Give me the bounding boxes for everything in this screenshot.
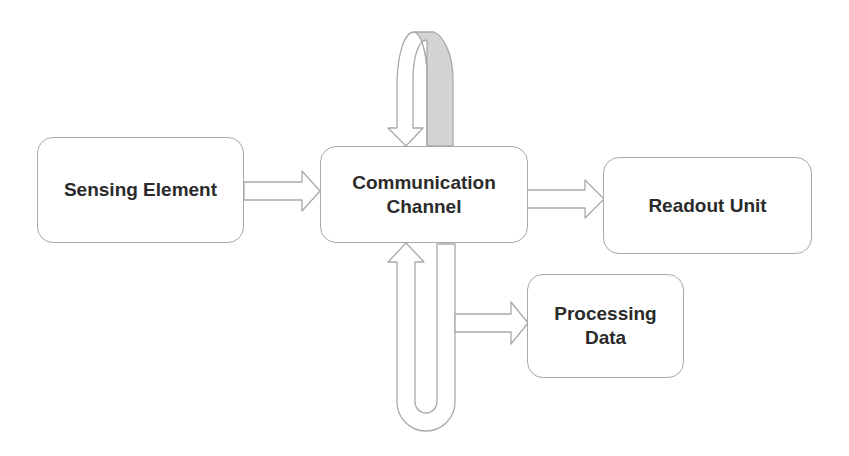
node-processing-data: Processing Data bbox=[527, 274, 684, 378]
node-readout-unit: Readout Unit bbox=[603, 157, 812, 254]
node-label: Communication Channel bbox=[352, 171, 496, 219]
arrow-comm-to-readout bbox=[527, 180, 604, 218]
node-communication-channel: Communication Channel bbox=[320, 146, 528, 243]
arrow-sensing-to-comm bbox=[244, 171, 320, 211]
node-label: Readout Unit bbox=[648, 194, 766, 218]
arrow-comm-to-processing bbox=[455, 302, 528, 344]
node-sensing-element: Sensing Element bbox=[37, 137, 244, 243]
loop-bottom bbox=[388, 243, 455, 431]
node-label: Sensing Element bbox=[64, 178, 217, 202]
node-label: Processing Data bbox=[554, 302, 656, 350]
loop-top-arrow bbox=[388, 32, 427, 146]
